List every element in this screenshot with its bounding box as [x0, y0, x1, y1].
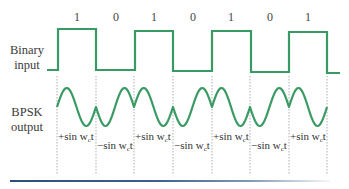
bpsk-diagram: Binary input BPSK output 1 0 1 0 1 0 1 +… — [0, 0, 349, 189]
bpsk-output-label-line1: BPSK — [2, 105, 52, 120]
bit-label: 1 — [148, 10, 160, 25]
segment-label-negative: −sin wct — [174, 139, 210, 153]
bit-label: 0 — [264, 10, 276, 25]
binary-input-waveform — [47, 29, 340, 73]
bit-label: 1 — [71, 10, 83, 25]
segment-label-negative: −sin wct — [97, 139, 133, 153]
bit-label: 0 — [187, 10, 199, 25]
bpsk-output-waveform — [57, 88, 327, 126]
binary-input-label-line1: Binary — [2, 43, 52, 58]
binary-input-label: Binary input — [2, 43, 52, 73]
bit-label: 1 — [302, 10, 314, 25]
segment-label-positive: +sin wct — [58, 130, 94, 144]
bit-boundaries — [57, 76, 327, 175]
bpsk-output-label-line2: output — [2, 120, 52, 135]
waveform-canvas — [0, 0, 349, 189]
bottom-rule — [10, 180, 330, 182]
segment-label-positive: +sin wct — [290, 130, 326, 144]
segment-label-positive: +sin wct — [135, 130, 171, 144]
segment-label-negative: −sin wct — [251, 139, 287, 153]
bpsk-output-label: BPSK output — [2, 105, 52, 135]
bit-label: 1 — [225, 10, 237, 25]
segment-label-positive: +sin wct — [213, 130, 249, 144]
bit-label: 0 — [110, 10, 122, 25]
binary-input-label-line2: input — [2, 58, 52, 73]
